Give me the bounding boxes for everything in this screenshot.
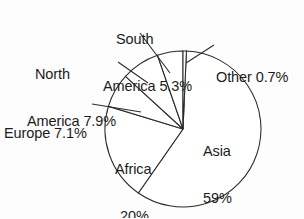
label-south-america: South America 5.3% bbox=[103, 1, 192, 125]
label-europe: Europe 7.1% bbox=[4, 95, 87, 173]
label-africa-line2: 20% bbox=[120, 209, 151, 219]
label-asia-line1: Asia bbox=[203, 144, 232, 160]
label-asia-line2: 59% bbox=[203, 191, 232, 207]
label-europe-line1: Europe 7.1% bbox=[4, 126, 87, 142]
label-other-line1: Other 0.7% bbox=[216, 70, 288, 86]
label-africa: Africa 20% bbox=[115, 131, 151, 218]
pie-chart-figure: South America 5.3% North America 7.9% Eu… bbox=[0, 0, 304, 218]
label-south-america-line2: America 5.3% bbox=[103, 79, 192, 95]
label-north-america-line1: North bbox=[35, 67, 116, 83]
label-other: Other 0.7% bbox=[216, 39, 288, 117]
label-asia: Asia 59% bbox=[203, 113, 232, 218]
label-africa-line1: Africa bbox=[115, 162, 151, 178]
label-south-america-line1: South bbox=[116, 32, 192, 48]
